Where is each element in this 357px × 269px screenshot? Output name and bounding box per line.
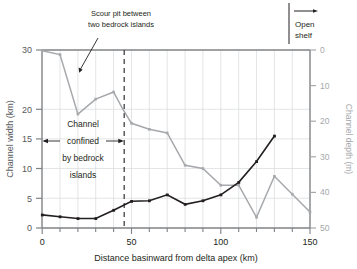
y2tick-label-40: 40 — [320, 187, 330, 197]
scour-pit-note-line2: two bedrock islands — [88, 20, 154, 29]
confined-note-line3: by bedrock — [62, 153, 104, 163]
chart-figure: 30 20 15 10 5 0 0 10 20 30 40 50 0 50 10… — [0, 0, 357, 269]
confined-note-line4: islands — [70, 170, 96, 180]
y-axis-title: Channel width (km) — [5, 100, 15, 178]
open-shelf-note-line1: Open — [295, 20, 315, 29]
confined-note-line1: Channel — [67, 119, 99, 129]
ytick-label-0: 0 — [27, 223, 32, 233]
y2tick-label-30: 30 — [320, 152, 330, 162]
right-axis-ticks — [310, 50, 316, 228]
xtick-label-0: 0 — [40, 237, 45, 247]
confined-note-line2: confined — [67, 136, 99, 146]
scour-pit-leader-line — [79, 38, 98, 73]
y2tick-label-20: 20 — [320, 116, 330, 126]
ytick-label-10: 10 — [22, 164, 32, 174]
bottom-axis-ticks — [42, 228, 310, 234]
x-axis-title: Distance basinward from delta apex (km) — [94, 253, 258, 263]
ytick-label-5: 5 — [27, 194, 32, 204]
y2-axis-title: Channel depth (m) — [344, 104, 354, 175]
scour-pit-note-line1: Scour pit between — [91, 9, 151, 18]
y2tick-label-50: 50 — [320, 223, 330, 233]
confinement-arrow-right — [118, 139, 124, 143]
channel-depth-line — [42, 51, 310, 218]
chart-canvas: 30 20 15 10 5 0 0 10 20 30 40 50 0 50 10… — [0, 0, 357, 269]
confinement-arrow-left — [43, 139, 49, 143]
left-axis-ticks — [36, 50, 42, 228]
open-shelf-note-line2: shelf — [295, 31, 313, 40]
xtick-label-50: 50 — [126, 237, 136, 247]
y2tick-label-10: 10 — [320, 81, 330, 91]
y2tick-label-0: 0 — [320, 45, 325, 55]
xtick-label-150: 150 — [302, 237, 317, 247]
ytick-label-30: 30 — [22, 45, 32, 55]
xtick-label-100: 100 — [213, 237, 228, 247]
ytick-label-20: 20 — [22, 105, 32, 115]
channel-depth-markers — [41, 49, 311, 218]
ytick-label-15: 15 — [22, 134, 32, 144]
